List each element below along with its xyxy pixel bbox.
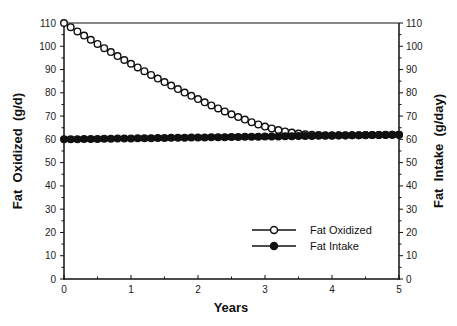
legend: Fat Oxidized Fat Intake [252,224,372,252]
data-point-filled [248,133,255,140]
data-point-filled [302,133,309,140]
left-y-tick-label: 110 [40,18,56,29]
left-y-tick-label: 30 [45,204,57,215]
data-point-filled [121,135,128,142]
data-point-open [141,68,148,75]
data-point-open [228,111,235,118]
legend-label-fat-oxidized: Fat Oxidized [310,224,372,236]
data-point-open [175,86,182,93]
right-y-tick-label: 60 [406,134,418,145]
data-point-open [248,119,255,126]
left-y-tick-label: 10 [45,250,57,261]
data-point-open [81,32,88,39]
legend-label-fat-intake: Fat Intake [310,240,359,252]
data-point-filled [168,135,175,142]
data-point-open [128,60,135,67]
data-point-open [148,72,155,79]
data-point-filled [215,134,222,141]
data-point-open [201,99,208,106]
right-y-tick-label: 0 [406,274,412,285]
right-y-tick-label: 20 [406,227,418,238]
data-point-filled [181,134,188,141]
data-point-open [74,28,81,35]
data-point-filled [342,132,349,139]
x-tick-label: 1 [128,284,134,295]
right-y-tick-label: 80 [406,87,418,98]
data-point-filled [61,136,68,143]
data-point-filled [268,133,275,140]
left-y-tick-label: 50 [45,157,57,168]
series-fat-oxidized [61,20,403,139]
filled-circle-marker-icon [271,243,278,250]
data-point-filled [201,134,208,141]
left-y-tick-label: 20 [45,227,57,238]
data-point-open [255,121,262,128]
data-point-filled [228,134,235,141]
data-point-filled [161,135,168,142]
data-point-open [181,89,188,96]
data-point-open [168,82,175,89]
data-point-filled [309,133,316,140]
data-point-filled [242,134,249,141]
chart: 0102030405060708090100110010203040506070… [0,0,457,326]
data-point-filled [389,132,396,139]
data-point-filled [255,133,262,140]
left-y-tick-label: 70 [45,111,57,122]
data-point-filled [141,135,148,142]
right-y-tick-label: 40 [406,180,418,191]
data-point-filled [235,134,242,141]
x-axis-title: Years [214,300,249,315]
data-point-filled [262,133,269,140]
legend-item-fat-intake: Fat Intake [252,240,359,252]
left-y-tick-label: 90 [45,64,57,75]
data-point-filled [94,136,101,143]
x-tick-label: 0 [61,284,67,295]
data-point-open [222,108,229,115]
data-point-filled [67,136,74,143]
data-point-filled [81,136,88,143]
open-circle-marker-icon [271,227,278,234]
x-tick-label: 4 [329,284,335,295]
data-point-filled [114,135,121,142]
data-point-open [114,53,121,60]
data-point-open [235,114,242,121]
data-point-filled [175,134,182,141]
data-point-open [101,45,108,52]
data-point-filled [382,132,389,139]
data-point-open [155,75,162,82]
right-y-tick-label: 10 [406,250,418,261]
data-point-open [188,93,195,100]
data-point-filled [88,136,95,143]
data-point-open [215,105,222,112]
right-y-tick-label: 70 [406,111,418,122]
data-point-open [195,96,202,103]
data-point-open [161,79,168,86]
data-point-open [262,123,269,130]
right-y-tick-label: 30 [406,204,418,215]
data-point-open [67,24,74,31]
data-point-filled [275,133,282,140]
right-y-axis-title: Fat Intake (g/day) [431,94,446,208]
right-y-tick-label: 50 [406,157,418,168]
data-point-open [94,41,101,48]
left-y-tick-label: 0 [50,274,56,285]
right-y-tick-label: 100 [406,41,423,52]
data-point-filled [74,136,81,143]
series-fat-intake [61,131,403,142]
data-point-filled [282,133,289,140]
x-tick-label: 5 [396,284,402,295]
data-point-filled [362,132,369,139]
x-tick-label: 3 [262,284,268,295]
legend-item-fat-oxidized: Fat Oxidized [252,224,372,236]
right-y-tick-label: 90 [406,64,418,75]
data-point-filled [134,135,141,142]
data-point-filled [315,133,322,140]
data-point-open [108,49,115,56]
data-point-filled [148,135,155,142]
data-point-filled [376,132,383,139]
data-point-open [242,116,249,123]
data-point-open [275,127,282,134]
data-point-open [121,57,128,64]
data-point-filled [295,133,302,140]
data-point-filled [195,134,202,141]
